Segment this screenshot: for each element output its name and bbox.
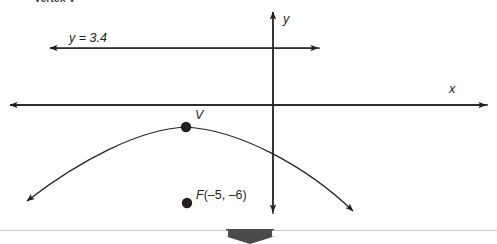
y-axis-label: y — [283, 13, 289, 26]
focus-label: F(–5, –6) — [196, 189, 247, 202]
focus-label-coordinates: (–5, –6) — [204, 188, 247, 202]
vertex-label: V — [195, 109, 203, 122]
parabola-left-branch — [27, 127, 186, 201]
vertex-point — [181, 122, 191, 132]
focus-point — [182, 198, 192, 208]
directrix-equation-label: y = 3.4 — [69, 32, 107, 45]
focus-label-letter: F — [196, 188, 204, 202]
diagram-canvas: Vertex V y = 3.4 x y V F(–5, –6) — [0, 0, 497, 244]
scroll-down-arrow-icon[interactable] — [218, 229, 282, 244]
x-axis-label: x — [449, 83, 455, 96]
